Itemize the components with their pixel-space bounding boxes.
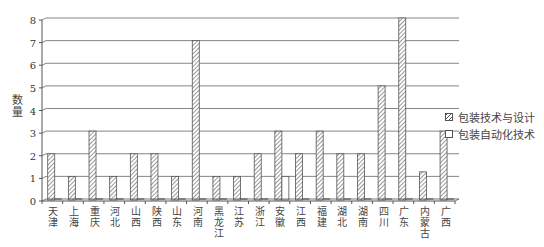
svg-text:6: 6: [30, 60, 36, 71]
svg-text:东: 东: [172, 216, 182, 228]
svg-text:古: 古: [420, 227, 430, 239]
svg-text:北: 北: [337, 217, 347, 228]
svg-text:苏: 苏: [234, 216, 244, 228]
svg-text:1: 1: [30, 173, 36, 184]
svg-text:北: 北: [110, 217, 120, 228]
legend-item-design: 包装技术与设计: [445, 108, 535, 125]
svg-text:4: 4: [30, 106, 36, 117]
legend: 包装技术与设计 包装自动化技术: [445, 108, 535, 142]
svg-text:津: 津: [48, 217, 58, 228]
svg-text:东: 东: [399, 216, 409, 228]
legend-item-automation: 包装自动化技术: [445, 125, 535, 142]
svg-text:河: 河: [193, 206, 203, 217]
svg-text:徽: 徽: [275, 216, 285, 228]
svg-text:西: 西: [441, 217, 451, 228]
gridlines: [42, 18, 459, 178]
legend-label: 包装技术与设计: [458, 109, 535, 125]
y-axis-label: 量: [12, 106, 23, 119]
axes: [42, 20, 459, 201]
svg-text:3: 3: [30, 128, 36, 139]
svg-text:5: 5: [30, 83, 36, 94]
svg-text:7: 7: [30, 38, 36, 49]
svg-text:内: 内: [420, 205, 430, 217]
svg-text:蒙: 蒙: [420, 216, 430, 228]
svg-text:河: 河: [110, 206, 120, 217]
hatched-swatch-icon: [445, 113, 453, 121]
svg-text:安: 安: [275, 205, 285, 217]
svg-text:南: 南: [193, 216, 203, 228]
legend-label: 包装自动化技术: [458, 126, 535, 142]
plain-swatch-icon: [445, 130, 453, 138]
svg-text:西: 西: [131, 217, 141, 228]
svg-text:川: 川: [379, 217, 389, 228]
svg-text:江: 江: [214, 228, 224, 239]
svg-text:湖: 湖: [358, 206, 368, 217]
svg-text:陕: 陕: [152, 205, 162, 217]
svg-text:广: 广: [399, 206, 409, 217]
svg-text:龙: 龙: [214, 216, 224, 228]
svg-text:0: 0: [30, 196, 36, 207]
svg-text:黑: 黑: [214, 206, 224, 217]
svg-text:江: 江: [234, 206, 244, 217]
svg-text:山: 山: [172, 206, 182, 217]
svg-text:四: 四: [379, 206, 389, 217]
svg-text:南: 南: [358, 216, 368, 228]
svg-text:8: 8: [30, 15, 36, 26]
y-axis-ticks: 012345678: [30, 15, 42, 207]
svg-text:建: 建: [317, 216, 327, 228]
bars: [48, 18, 454, 200]
svg-text:上: 上: [69, 206, 79, 217]
svg-text:2: 2: [30, 151, 36, 162]
svg-text:天: 天: [48, 206, 58, 217]
svg-text:江: 江: [296, 206, 306, 217]
svg-text:庆: 庆: [90, 216, 100, 228]
svg-text:西: 西: [152, 217, 162, 228]
svg-text:广: 广: [441, 206, 451, 217]
x-axis-labels: 天津上海重庆河北山西陕西山东河南黑龙江江苏浙江安徽江西福建湖北湖南四川广东内蒙古…: [42, 201, 455, 239]
svg-text:浙: 浙: [255, 206, 265, 217]
svg-text:江: 江: [255, 217, 265, 228]
svg-text:西: 西: [296, 217, 306, 228]
svg-text:山: 山: [131, 206, 141, 217]
svg-text:福: 福: [317, 205, 327, 217]
svg-text:海: 海: [69, 216, 79, 228]
svg-text:湖: 湖: [337, 206, 347, 217]
svg-text:重: 重: [90, 205, 100, 217]
